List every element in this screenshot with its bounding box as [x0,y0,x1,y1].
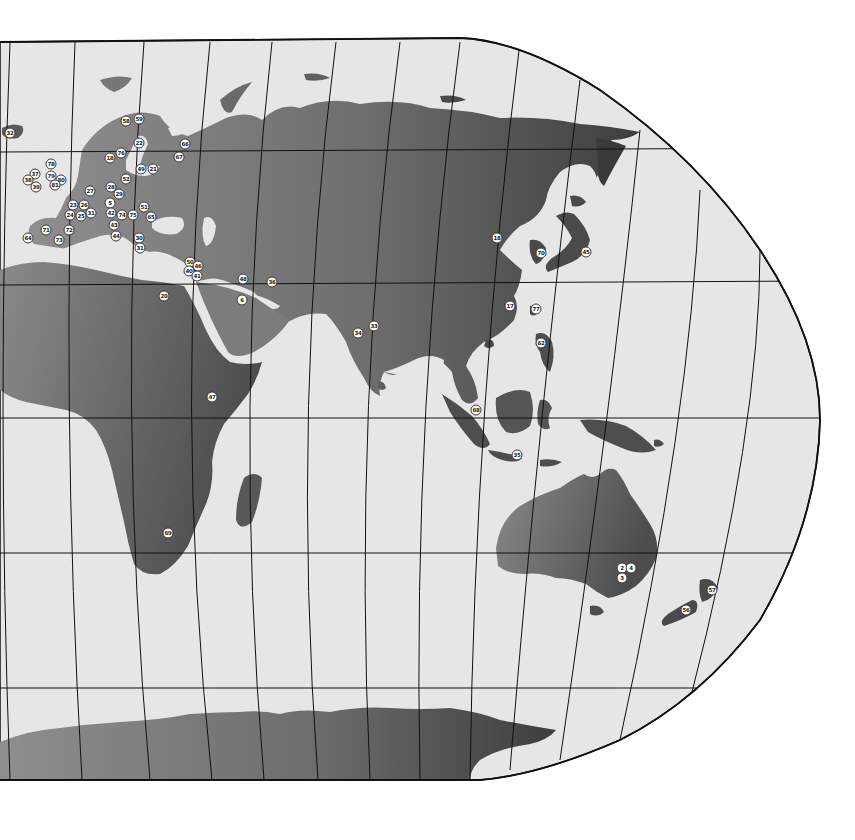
map-marker[interactable]: 66 [180,139,191,150]
map-marker[interactable]: 3 [617,573,628,584]
map-marker[interactable]: 65 [146,212,157,223]
map-marker[interactable]: 33 [369,321,380,332]
map-marker[interactable]: 64 [23,233,34,244]
map-marker[interactable]: 34 [353,328,364,339]
map-marker[interactable]: 78 [46,159,57,170]
map-marker[interactable]: 67 [174,152,185,163]
map-marker[interactable]: 76 [116,148,127,159]
map-marker[interactable]: 51 [139,202,150,213]
map-marker[interactable]: 73 [54,235,65,246]
map-marker[interactable]: 18 [105,153,116,164]
map-marker[interactable]: 20 [159,291,170,302]
map-marker[interactable]: 62 [536,338,547,349]
map-marker[interactable]: 35 [512,450,523,461]
map-marker[interactable]: 81 [50,180,61,191]
map-marker[interactable]: 36 [267,277,278,288]
map-marker[interactable]: 69 [163,528,174,539]
map-marker[interactable]: 39 [31,182,42,193]
map-marker[interactable]: 29 [114,189,125,200]
map-marker[interactable]: 74 [117,210,128,221]
map-marker[interactable]: 32 [5,128,16,139]
map-marker[interactable]: 77 [531,304,542,315]
map-marker[interactable]: 27 [85,186,96,197]
map-marker[interactable]: 45 [581,247,592,258]
map-marker[interactable]: 18 [492,233,503,244]
map-marker[interactable]: 44 [111,231,122,242]
map-marker[interactable]: 31 [86,208,97,219]
map-marker[interactable]: 48 [238,274,249,285]
map-marker[interactable]: 22 [134,138,145,149]
map-marker[interactable]: 71 [41,225,52,236]
map-marker[interactable]: 31 [135,243,146,254]
map-marker[interactable]: 59 [134,114,145,125]
map-marker[interactable]: 21 [148,164,159,175]
map-marker[interactable]: 6 [237,295,248,306]
map-marker[interactable]: 4 [626,563,637,574]
map-marker[interactable]: 57 [707,585,718,596]
map-marker[interactable]: 70 [536,248,547,259]
map-marker[interactable]: 47 [207,392,218,403]
map-marker[interactable]: 72 [64,225,75,236]
map-marker[interactable]: 75 [128,210,139,221]
map-marker[interactable]: 17 [505,301,516,312]
map-marker[interactable]: 49 [136,164,147,175]
map-marker[interactable]: 41 [192,271,203,282]
map-marker[interactable]: 56 [681,605,692,616]
map-marker[interactable]: 68 [471,405,482,416]
map-marker[interactable]: 42 [106,208,117,219]
map-marker[interactable]: 52 [121,174,132,185]
map-marker[interactable]: 58 [121,116,132,127]
map-marker[interactable]: 24 [65,210,76,221]
map-marker[interactable]: 43 [109,220,120,231]
